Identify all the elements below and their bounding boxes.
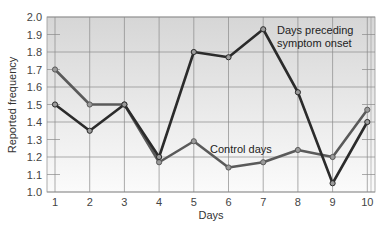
x-tick-label: 6 [225, 196, 231, 208]
x-tick-label: 3 [121, 196, 127, 208]
y-tick-label: 1.4 [27, 116, 42, 128]
y-tick-label: 1.2 [27, 151, 42, 163]
data-point-marker [87, 102, 92, 107]
y-tick-label: 2.0 [27, 11, 42, 23]
annotation-control-days: Control days [210, 143, 272, 155]
data-point-marker [191, 139, 196, 144]
x-tick-label: 9 [330, 196, 336, 208]
x-tick-label: 4 [156, 196, 162, 208]
x-tick-label: 2 [87, 196, 93, 208]
y-tick-label: 1.3 [27, 134, 42, 146]
x-tick-label: 8 [295, 196, 301, 208]
data-point-marker [261, 160, 266, 165]
data-point-marker [122, 102, 127, 107]
data-point-marker [191, 49, 196, 54]
y-tick-label: 1.8 [27, 46, 42, 58]
x-tick-label: 5 [191, 196, 197, 208]
x-axis-label: Days [198, 209, 224, 221]
data-point-marker [226, 55, 231, 60]
data-point-marker [295, 147, 300, 152]
data-point-marker [52, 67, 57, 72]
y-axis-label: Reported frequency [6, 56, 18, 153]
data-point-marker [365, 119, 370, 124]
data-point-marker [330, 154, 335, 159]
data-point-marker [52, 102, 57, 107]
data-point-marker [157, 160, 162, 165]
y-tick-label: 1.6 [27, 81, 42, 93]
data-point-marker [330, 181, 335, 186]
annotation-days-preceding: Days preceding [277, 24, 353, 36]
y-axis-ticks: 1.01.11.21.31.41.51.61.71.81.92.0 [27, 11, 42, 198]
data-point-marker [87, 128, 92, 133]
data-point-marker [261, 27, 266, 32]
x-tick-label: 10 [361, 196, 373, 208]
y-tick-label: 1.7 [27, 64, 42, 76]
annotation-symptom-onset: symptom onset [277, 37, 352, 49]
data-point-marker [157, 154, 162, 159]
x-tick-label: 7 [260, 196, 266, 208]
line-chart: 1.01.11.21.31.41.51.61.71.81.92.0 123456… [0, 0, 385, 230]
y-tick-label: 1.0 [27, 186, 42, 198]
data-point-marker [295, 90, 300, 95]
data-point-marker [365, 107, 370, 112]
x-axis-ticks: 12345678910 [52, 196, 373, 208]
x-tick-label: 1 [52, 196, 58, 208]
y-tick-label: 1.1 [27, 169, 42, 181]
data-point-marker [226, 165, 231, 170]
y-tick-label: 1.5 [27, 99, 42, 111]
y-tick-label: 1.9 [27, 29, 42, 41]
